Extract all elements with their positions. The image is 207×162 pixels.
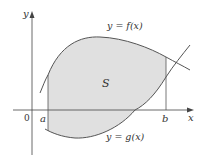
y-axis-label: y xyxy=(22,8,29,19)
bound-label-b: b xyxy=(162,113,168,124)
bound-label-a: a xyxy=(40,113,46,124)
region-label-s: S xyxy=(102,77,110,90)
area-between-curves-diagram: y x 0 a b S y = f(x) y = g(x) xyxy=(0,0,207,162)
curve-f-label: y = f(x) xyxy=(106,20,143,31)
y-axis-arrow-icon xyxy=(30,11,35,18)
x-axis-label: x xyxy=(188,112,194,123)
origin-label: 0 xyxy=(24,113,30,123)
curve-g-label: y = g(x) xyxy=(105,131,145,142)
